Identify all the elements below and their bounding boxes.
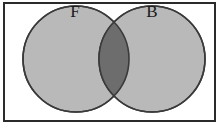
set-f-label: F bbox=[70, 2, 79, 21]
venn-diagram-figure: F B bbox=[0, 0, 223, 128]
venn-diagram-canvas: F B bbox=[0, 0, 223, 128]
set-b-label: B bbox=[146, 2, 157, 21]
